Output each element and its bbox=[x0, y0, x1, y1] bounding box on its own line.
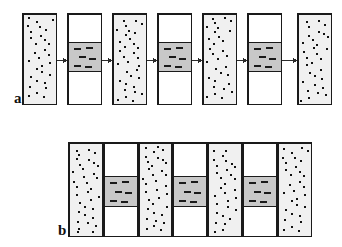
speckle-dot bbox=[29, 86, 31, 88]
speckle-dot bbox=[323, 33, 325, 35]
speckle-dot bbox=[316, 44, 318, 46]
speckle-dot bbox=[206, 96, 208, 98]
speckle-dot bbox=[87, 222, 89, 224]
column-banded[interactable] bbox=[248, 14, 282, 105]
figure-canvas: ab bbox=[0, 0, 342, 247]
speckle-dot bbox=[156, 189, 158, 191]
speckle-dot bbox=[28, 17, 30, 19]
speckle-dot bbox=[27, 25, 29, 27]
band-dash bbox=[265, 66, 272, 68]
speckle-dot bbox=[161, 214, 163, 216]
speckle-dot bbox=[49, 62, 51, 64]
column-speckled[interactable] bbox=[203, 14, 237, 105]
speckle-dot bbox=[291, 152, 293, 154]
speckle-dot bbox=[217, 27, 219, 29]
speckle-dot bbox=[284, 219, 286, 221]
speckle-dot bbox=[290, 174, 292, 176]
speckle-dot bbox=[320, 58, 322, 60]
speckle-dot bbox=[135, 20, 137, 22]
speckle-dot bbox=[36, 21, 38, 23]
speckle-dot bbox=[226, 55, 228, 57]
speckle-dot bbox=[306, 64, 308, 66]
speckle-dot bbox=[235, 209, 237, 211]
column-speckled[interactable] bbox=[208, 143, 242, 237]
speckle-dot bbox=[78, 154, 80, 156]
speckle-dot bbox=[300, 100, 302, 102]
column-speckled[interactable] bbox=[23, 14, 57, 105]
speckle-dot bbox=[213, 150, 215, 152]
speckle-dot bbox=[95, 225, 97, 227]
band-dash bbox=[269, 58, 276, 60]
speckle-dot bbox=[162, 159, 164, 161]
speckle-dot bbox=[235, 197, 237, 199]
speckle-dot bbox=[145, 191, 147, 193]
speckle-dot bbox=[163, 222, 165, 224]
speckle-dot bbox=[283, 192, 285, 194]
speckle-dot bbox=[214, 22, 216, 24]
speckle-dot bbox=[34, 52, 36, 54]
speckle-dot bbox=[41, 65, 43, 67]
column-banded[interactable] bbox=[158, 14, 192, 105]
speckle-dot bbox=[213, 43, 215, 45]
band-dash bbox=[175, 66, 182, 68]
speckle-dot bbox=[76, 158, 78, 160]
speckle-dot bbox=[39, 26, 41, 28]
speckle-dot bbox=[146, 228, 148, 230]
speckle-dot bbox=[138, 65, 140, 67]
speckle-dot bbox=[318, 20, 320, 22]
band-dash bbox=[179, 182, 186, 184]
band-dash bbox=[190, 201, 197, 203]
speckle-dot bbox=[136, 69, 138, 71]
speckle-dot bbox=[88, 149, 90, 151]
speckle-dot bbox=[78, 211, 80, 213]
column-banded[interactable] bbox=[104, 143, 138, 237]
speckle-dot bbox=[147, 161, 149, 163]
column-speckled[interactable] bbox=[113, 14, 147, 105]
speckle-dot bbox=[142, 178, 144, 180]
band-dash bbox=[125, 192, 132, 194]
speckle-dot bbox=[41, 71, 43, 73]
speckle-dot bbox=[299, 171, 301, 173]
speckle-dot bbox=[148, 199, 150, 201]
speckle-dot bbox=[225, 160, 227, 162]
speckle-dot bbox=[77, 231, 79, 233]
column-fill bbox=[298, 14, 332, 105]
column-banded[interactable] bbox=[173, 143, 207, 237]
speckle-dot bbox=[302, 42, 304, 44]
speckle-dot bbox=[214, 231, 216, 233]
column-speckled[interactable] bbox=[69, 143, 103, 237]
speckle-dot bbox=[212, 53, 214, 55]
column-banded[interactable] bbox=[243, 143, 277, 237]
speckle-dot bbox=[303, 175, 305, 177]
speckle-dot bbox=[161, 170, 163, 172]
speckle-dot bbox=[303, 186, 305, 188]
speckle-dot bbox=[137, 57, 139, 59]
speckle-dot bbox=[215, 68, 217, 70]
speckle-dot bbox=[220, 72, 222, 74]
speckle-dot bbox=[326, 48, 328, 50]
speckle-dot bbox=[92, 217, 94, 219]
speckle-dot bbox=[229, 30, 231, 32]
band-dash bbox=[194, 192, 201, 194]
speckle-dot bbox=[206, 61, 208, 63]
band-dash bbox=[264, 192, 271, 194]
speckle-dot bbox=[129, 38, 131, 40]
speckle-dot bbox=[283, 148, 285, 150]
speckle-dot bbox=[134, 91, 136, 93]
speckle-dot bbox=[208, 77, 210, 79]
speckle-dot bbox=[44, 39, 46, 41]
speckle-dot bbox=[289, 184, 291, 186]
column-speckled[interactable] bbox=[278, 143, 312, 237]
speckle-dot bbox=[130, 75, 132, 77]
column-speckled[interactable] bbox=[139, 143, 172, 237]
speckle-dot bbox=[151, 165, 153, 167]
speckle-dot bbox=[214, 80, 216, 82]
speckle-dot bbox=[216, 172, 218, 174]
speckle-dot bbox=[83, 176, 85, 178]
column-speckled[interactable] bbox=[298, 14, 332, 105]
speckle-dot bbox=[206, 26, 208, 28]
speckle-dot bbox=[226, 169, 228, 171]
column-fill bbox=[139, 143, 172, 237]
column-banded[interactable] bbox=[68, 14, 102, 105]
speckle-dot bbox=[224, 17, 226, 19]
